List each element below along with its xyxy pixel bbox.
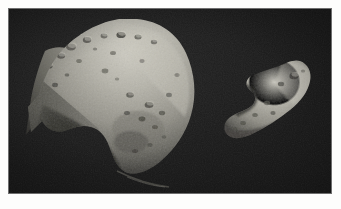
asteroid-large-label: Mathilde xyxy=(0,0,1,1)
lower-tail-streak xyxy=(117,171,169,187)
asteroid-small-label: Eros xyxy=(0,0,1,1)
asteroid-photograph: Two asteroids imaged by spacecraft xyxy=(9,9,331,193)
page-canvas: Two asteroids imaged by spacecraft xyxy=(0,0,341,209)
asteroid-large xyxy=(9,9,331,193)
